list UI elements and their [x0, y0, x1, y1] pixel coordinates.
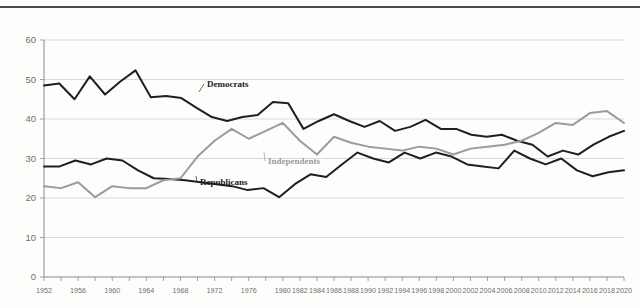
- y-tick-label: 30: [25, 153, 36, 164]
- series-line-independents: [44, 111, 624, 197]
- y-axis-tick-labels: 0102030405060: [25, 34, 36, 282]
- y-tick-label: 10: [25, 232, 36, 243]
- x-tick-label: 1994: [394, 286, 410, 295]
- x-tick-label: 1956: [70, 286, 86, 295]
- x-tick-label: 1986: [326, 286, 342, 295]
- chart-page: 0102030405060 19521956196019641968197219…: [0, 0, 640, 308]
- x-tick-label: 2018: [599, 286, 615, 295]
- x-tick-label: 1990: [360, 286, 376, 295]
- y-tick-label: 60: [25, 34, 36, 45]
- series-label-democrats: Democrats: [207, 79, 249, 89]
- x-tick-label: 2006: [497, 286, 513, 295]
- x-tick-label: 2020: [616, 286, 632, 295]
- x-axis-tick-labels: 1952195619601964196819721976198019821984…: [36, 286, 632, 295]
- series-annotation-labels: DemocratsRepublicansIndependents: [196, 79, 321, 187]
- x-tick-label: 2012: [548, 286, 564, 295]
- y-tick-label: 40: [25, 113, 36, 124]
- series-label-republicans: Republicans: [200, 177, 248, 187]
- x-tick-label: 1972: [207, 286, 223, 295]
- x-tick-label: 2000: [445, 286, 461, 295]
- x-tick-label: 1952: [36, 286, 52, 295]
- series-line-democrats: [44, 70, 624, 156]
- x-tick-label: 1976: [241, 286, 257, 295]
- x-tick-label: 2016: [582, 286, 598, 295]
- x-tick-label: 2014: [565, 286, 581, 295]
- x-tick-label: 1982: [292, 286, 308, 295]
- y-tick-label: 0: [31, 271, 36, 282]
- x-tick-label: 1992: [377, 286, 393, 295]
- leader-line-independents: [264, 152, 265, 161]
- x-tick-label: 1964: [138, 286, 154, 295]
- party-identification-line-chart: 0102030405060 19521956196019641968197219…: [0, 0, 640, 308]
- x-tick-label: 1980: [275, 286, 291, 295]
- x-axis-tick-marks: [44, 277, 624, 281]
- x-tick-label: 1988: [343, 286, 359, 295]
- chart-svg: 0102030405060 19521956196019641968197219…: [0, 0, 640, 308]
- series-lines-group: [44, 70, 624, 197]
- x-tick-label: 2002: [462, 286, 478, 295]
- x-tick-label: 1960: [104, 286, 120, 295]
- x-tick-label: 1996: [411, 286, 427, 295]
- y-tick-label: 50: [25, 74, 36, 85]
- x-tick-label: 2004: [480, 286, 496, 295]
- y-tick-label: 20: [25, 192, 36, 203]
- x-tick-label: 2010: [531, 286, 547, 295]
- series-label-independents: Independents: [268, 156, 321, 166]
- series-line-republicans: [44, 151, 624, 198]
- x-tick-label: 1984: [309, 286, 325, 295]
- x-tick-label: 1998: [428, 286, 444, 295]
- x-tick-label: 1968: [172, 286, 188, 295]
- x-tick-label: 2008: [514, 286, 530, 295]
- leader-line-democrats: [199, 84, 204, 92]
